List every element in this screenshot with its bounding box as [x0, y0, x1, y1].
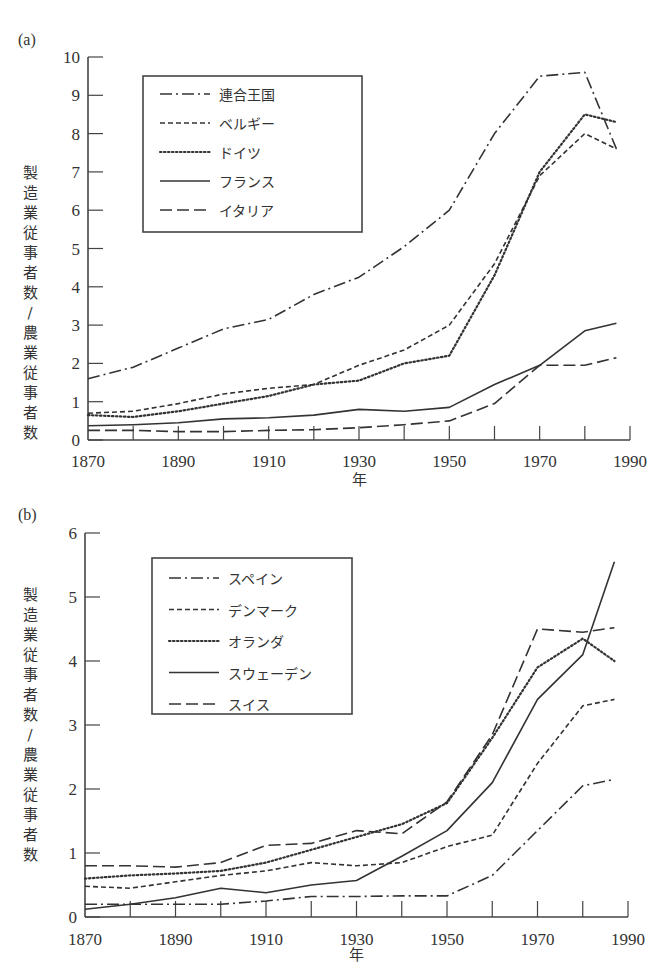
y-tick-label: 8	[72, 125, 81, 144]
y-tick-label: 7	[72, 163, 81, 182]
y-axis-label-char: 数	[23, 846, 38, 864]
x-tick-label: 1890	[161, 452, 195, 471]
series-line	[85, 779, 614, 904]
legend: 連合王国ベルギードイツフランスイタリア	[143, 76, 362, 232]
x-tick-label: 1870	[68, 930, 102, 949]
y-axis-label-char: 農	[23, 324, 38, 342]
x-tick-label: 1950	[430, 930, 464, 949]
y-axis-label-char: 事	[23, 384, 38, 402]
y-axis-label-char: /	[27, 304, 33, 322]
y-axis-label-char: 事	[23, 666, 38, 684]
y-axis-label-char: 従	[23, 646, 38, 664]
x-tick-label: 1910	[249, 930, 283, 949]
y-tick-label: 4	[69, 652, 78, 671]
x-tick-label: 1890	[159, 930, 193, 949]
series-line	[85, 699, 614, 888]
x-tick-label: 1950	[432, 452, 466, 471]
y-axis-label-char: 従	[23, 364, 38, 382]
y-axis-label-char: 従	[23, 224, 38, 242]
y-tick-label: 10	[63, 48, 80, 67]
y-tick-label: 6	[69, 524, 78, 543]
y-tick-label: 1	[69, 844, 78, 863]
legend-label: スウェーデン	[228, 666, 312, 682]
legend-label: フランス	[219, 174, 275, 190]
x-axis-label: 年	[352, 471, 367, 489]
legend-label: オランダ	[228, 634, 284, 650]
y-axis-label-char: 造	[23, 606, 38, 624]
x-tick-label: 1990	[611, 930, 645, 949]
y-axis-label-char: 数	[23, 284, 38, 302]
y-axis-label: 製造業従事者数/農業従事者数	[23, 164, 38, 442]
y-tick-label: 6	[72, 201, 81, 220]
panel-label: (b)	[18, 506, 37, 524]
y-axis-label-char: 業	[23, 204, 38, 222]
y-tick-label: 4	[72, 278, 81, 297]
legend-label: デンマーク	[228, 603, 298, 619]
legend-label: イタリア	[219, 203, 274, 219]
y-tick-label: 3	[69, 716, 78, 735]
y-tick-label: 3	[72, 316, 81, 335]
series-line	[88, 358, 616, 432]
figure: (a)0123456789101870189019101930195019701…	[0, 0, 672, 972]
panel-label: (a)	[18, 31, 36, 49]
x-tick-label: 1930	[342, 452, 376, 471]
legend-label: スイス	[228, 697, 270, 713]
x-tick-label: 1990	[613, 452, 647, 471]
y-axis-label-char: 業	[23, 626, 38, 644]
y-axis-label-char: 事	[23, 806, 38, 824]
legend-label: スペイン	[228, 571, 283, 587]
y-axis-label-char: 者	[23, 264, 38, 282]
y-axis-label-char: 数	[23, 706, 38, 724]
chart-panel-a: (a)0123456789101870189019101930195019701…	[18, 31, 647, 489]
y-tick-label: 5	[72, 240, 81, 259]
y-axis-label-char: 者	[23, 826, 38, 844]
y-tick-label: 0	[69, 908, 78, 927]
x-tick-label: 1870	[71, 452, 105, 471]
chart-panel-b: (b)01234561870189019101930195019701990年製…	[18, 506, 645, 964]
x-tick-label: 1910	[252, 452, 286, 471]
y-axis-label-char: /	[27, 726, 33, 744]
y-tick-label: 1	[72, 393, 81, 412]
y-axis-label-char: 従	[23, 786, 38, 804]
legend: スペインデンマークオランダスウェーデンスイス	[152, 558, 352, 714]
x-tick-label: 1970	[521, 930, 555, 949]
x-axis-label: 年	[349, 946, 364, 964]
series-line	[88, 323, 616, 426]
y-axis-label-char: 業	[23, 766, 38, 784]
y-axis-label-char: 農	[23, 746, 38, 764]
y-tick-label: 9	[72, 86, 81, 105]
x-tick-label: 1970	[523, 452, 557, 471]
y-tick-label: 2	[72, 354, 81, 373]
y-axis-label-char: 製	[23, 164, 38, 182]
y-tick-label: 0	[72, 431, 81, 450]
y-tick-label: 5	[69, 588, 78, 607]
y-axis-label-char: 造	[23, 184, 38, 202]
legend-label: 連合王国	[219, 87, 275, 103]
y-axis-label-char: 者	[23, 404, 38, 422]
y-axis-label-char: 数	[23, 424, 38, 442]
y-axis-label-char: 製	[23, 586, 38, 604]
y-axis-label: 製造業従事者数/農業従事者数	[23, 586, 38, 864]
y-axis-label-char: 者	[23, 686, 38, 704]
y-axis-label-char: 業	[23, 344, 38, 362]
legend-label: ベルギー	[219, 116, 275, 132]
y-axis-label-char: 事	[23, 244, 38, 262]
y-tick-label: 2	[69, 780, 78, 799]
legend-label: ドイツ	[219, 145, 261, 161]
